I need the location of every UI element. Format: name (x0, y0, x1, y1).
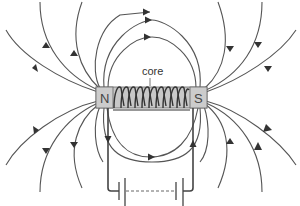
solenoid-field-diagram: N S core (0, 0, 300, 206)
top-right-field-lines (205, 2, 296, 92)
top-inner-field-lines (104, 17, 201, 89)
bottom-right-field-lines (200, 101, 296, 192)
battery (119, 178, 183, 206)
bottom-inner-field-lines (103, 108, 200, 162)
bottom-left-field-lines (6, 101, 103, 192)
top-left-field-lines (6, 2, 150, 92)
north-pole-label: N (100, 91, 109, 106)
core-label: core (142, 65, 163, 77)
south-pole-label: S (194, 91, 203, 106)
